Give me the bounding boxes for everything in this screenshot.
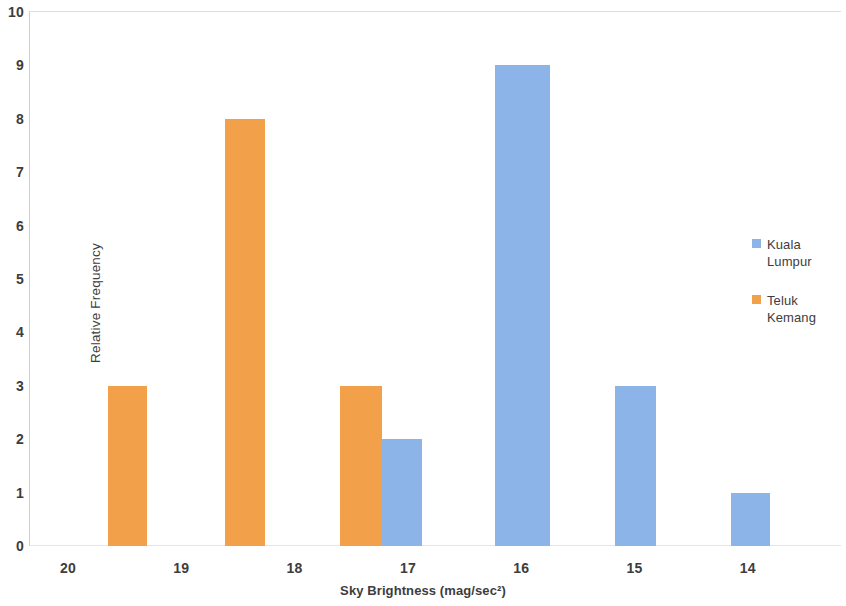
bar-chart: Relative Frequency 012345678910 20191817… xyxy=(0,0,846,606)
bar xyxy=(731,493,770,546)
y-tick-label: 6 xyxy=(0,218,24,234)
bar xyxy=(340,386,382,546)
y-tick-label: 9 xyxy=(0,57,24,73)
y-tick-label: 10 xyxy=(0,4,24,20)
bar xyxy=(382,439,422,546)
legend-item: Teluk Kemang xyxy=(752,292,842,326)
y-tick-label: 0 xyxy=(0,538,24,554)
x-tick-label: 16 xyxy=(491,560,551,576)
x-axis-title: Sky Brightness (mag/sec²) xyxy=(0,583,846,598)
y-tick-label: 1 xyxy=(0,485,24,501)
x-tick-label: 20 xyxy=(38,560,98,576)
x-tick-label: 14 xyxy=(718,560,778,576)
y-tick-label: 8 xyxy=(0,111,24,127)
x-tick-label: 15 xyxy=(605,560,665,576)
bar xyxy=(495,65,550,546)
legend-item: Kuala Lumpur xyxy=(752,236,842,270)
bar xyxy=(225,119,265,546)
y-tick-label: 5 xyxy=(0,271,24,287)
legend-swatch-icon xyxy=(752,295,761,304)
legend-swatch-icon xyxy=(752,239,761,248)
x-tick-label: 18 xyxy=(265,560,325,576)
y-tick-label: 2 xyxy=(0,431,24,447)
y-tick-label: 3 xyxy=(0,378,24,394)
x-tick-label: 19 xyxy=(151,560,211,576)
plot-area xyxy=(30,12,840,546)
bar xyxy=(108,386,147,546)
chart-legend: Kuala LumpurTeluk Kemang xyxy=(752,236,842,348)
bar xyxy=(615,386,656,546)
y-tick-label: 4 xyxy=(0,324,24,340)
x-tick-label: 17 xyxy=(378,560,438,576)
y-tick-label: 7 xyxy=(0,164,24,180)
legend-label: Kuala Lumpur xyxy=(767,236,842,270)
legend-label: Teluk Kemang xyxy=(767,292,842,326)
